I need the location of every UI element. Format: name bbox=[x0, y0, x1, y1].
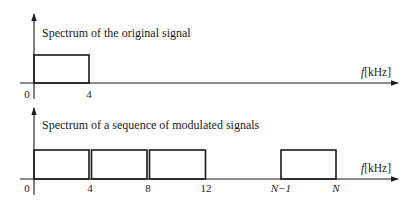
bottom-band-n1-n bbox=[281, 150, 336, 179]
bottom-tick-0: 0 bbox=[24, 182, 30, 194]
bottom-axis-unit: [kHz] bbox=[364, 162, 391, 174]
bottom-band-8-12 bbox=[150, 150, 206, 179]
bottom-panel: Spectrum of a sequence of modulated sign… bbox=[20, 108, 398, 195]
bottom-tick-12: 12 bbox=[201, 182, 212, 194]
bottom-tick-8: 8 bbox=[145, 182, 151, 194]
top-axis-unit: [kHz] bbox=[364, 66, 391, 78]
top-band-0-4 bbox=[34, 55, 89, 83]
diagram-canvas: Spectrum of the original signal 0 4 f[kH… bbox=[0, 0, 417, 203]
top-axis-label: f[kHz] bbox=[361, 66, 391, 79]
bottom-band-0-4 bbox=[34, 150, 89, 179]
bottom-tick-4: 4 bbox=[87, 182, 93, 194]
bottom-panel-title: Spectrum of a sequence of modulated sign… bbox=[42, 118, 260, 132]
spectrum-diagram: Spectrum of the original signal 0 4 f[kH… bbox=[0, 0, 417, 203]
top-tick-4: 4 bbox=[86, 88, 92, 100]
bottom-tick-n-minus-1: N−1 bbox=[270, 182, 291, 194]
top-panel-title: Spectrum of the original signal bbox=[42, 26, 191, 40]
top-panel: Spectrum of the original signal 0 4 f[kH… bbox=[20, 14, 398, 100]
bottom-axis-label: f[kHz] bbox=[361, 162, 391, 175]
bottom-tick-n: N bbox=[331, 182, 340, 194]
bottom-band-4-8 bbox=[92, 150, 148, 179]
top-tick-0: 0 bbox=[24, 88, 30, 100]
